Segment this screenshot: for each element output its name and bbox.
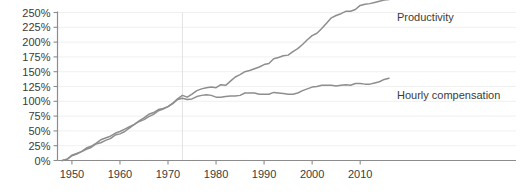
y-tick-label: 75%	[28, 110, 50, 122]
y-tick-label: 25%	[28, 140, 50, 152]
y-tick-label: 225%	[22, 21, 50, 33]
y-tick-label: 50%	[28, 125, 50, 137]
x-tick-label: 2000	[300, 168, 324, 180]
series-label: Hourly compensation	[397, 89, 500, 101]
y-axis	[54, 12, 58, 161]
y-tick-label: 175%	[22, 51, 50, 63]
series-label: Productivity	[397, 11, 454, 23]
data-series-lines	[62, 0, 389, 161]
x-tick-label: 1990	[252, 168, 276, 180]
x-tick-label: 1980	[204, 168, 228, 180]
y-tick-labels: 0%25%50%75%100%125%150%175%200%225%250%	[22, 7, 50, 167]
x-axis	[58, 161, 517, 165]
y-tick-label: 125%	[22, 81, 50, 93]
series-labels: ProductivityHourly compensation	[397, 11, 500, 102]
y-tick-label: 200%	[22, 36, 50, 48]
x-tick-label: 2010	[348, 168, 372, 180]
x-tick-label: 1970	[156, 168, 180, 180]
y-tick-label: 0%	[35, 155, 51, 167]
y-tick-label: 150%	[22, 66, 50, 78]
gridlines-horizontal	[58, 13, 517, 161]
productivity-pay-gap-chart: 0%25%50%75%100%125%150%175%200%225%250% …	[0, 0, 522, 194]
x-tick-labels: 1950196019701980199020002010	[60, 168, 373, 180]
y-tick-label: 250%	[22, 7, 50, 19]
chart-canvas: 0%25%50%75%100%125%150%175%200%225%250% …	[0, 0, 522, 194]
x-tick-label: 1960	[108, 168, 132, 180]
x-tick-label: 1950	[60, 168, 84, 180]
y-tick-label: 100%	[22, 95, 50, 107]
series-line	[62, 78, 389, 160]
